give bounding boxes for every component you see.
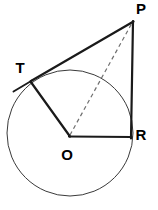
vertex-label-r: R [136, 126, 147, 143]
geometry-diagram: P T R O [0, 0, 158, 210]
segment-ot-radius [31, 82, 71, 137]
segment-or-radius [69, 137, 132, 138]
vertex-label-t: T [15, 59, 24, 76]
segment-tangent-extension [14, 81, 33, 92]
vertex-label-o: O [61, 146, 73, 163]
geometry-canvas: P T R O [0, 0, 158, 210]
vertex-label-p: P [136, 0, 146, 17]
circle-outline [7, 70, 133, 196]
segment-pt-tangent [31, 22, 134, 82]
segment-pr [131, 21, 133, 139]
